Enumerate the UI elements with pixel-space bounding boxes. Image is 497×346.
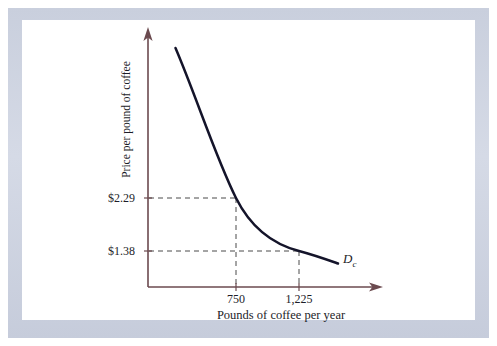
y-axis-title-text: Price per pound of coffee: [120, 61, 132, 178]
y-tick-label-price-229: $2.29: [108, 192, 135, 204]
demand-curve-label-main: D: [343, 251, 352, 266]
y-axis-title: Price per pound of coffee: [54, 112, 199, 128]
y-tick-label-price-138: $1.38: [108, 245, 135, 257]
figure-root: Price per pound of coffee Pounds of coff…: [0, 0, 497, 346]
x-tick-label-1225: 1,225: [286, 293, 313, 305]
x-axis-title: Pounds of coffee per year: [217, 309, 345, 322]
x-tick-label-750: 750: [227, 293, 245, 305]
demand-curve-label-subscript: c: [352, 259, 356, 269]
demand-curve-label: Dc: [343, 252, 356, 269]
figure-white-plate: [22, 20, 475, 320]
